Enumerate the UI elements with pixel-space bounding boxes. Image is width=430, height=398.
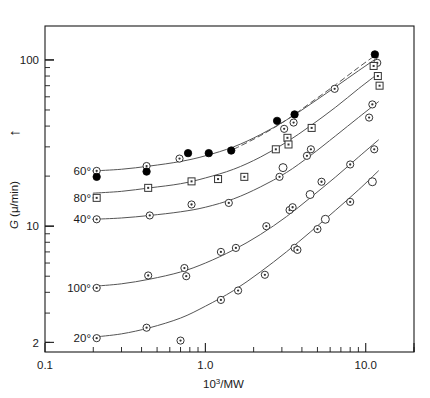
marker-center-dot [147, 274, 149, 276]
marker-center-dot [145, 327, 147, 329]
marker-center-dot [96, 170, 98, 172]
marker-square-dot [376, 82, 383, 89]
marker-circle-dot [232, 244, 239, 251]
marker-circle-dot [290, 119, 297, 126]
marker-center-dot [147, 187, 149, 189]
series-label-60deg: 60° [74, 165, 91, 177]
marker-circle-dot [145, 272, 152, 279]
marker-filled-circle [184, 149, 191, 156]
marker-circle-dot [93, 335, 100, 342]
marker-circle-dot [217, 248, 224, 255]
marker-center-dot [278, 176, 280, 178]
x-tick-label: 10.0 [355, 359, 377, 371]
marker-center-dot [296, 249, 298, 251]
y-axis-title: G (μ/min) [8, 181, 20, 229]
marker-square-dot [284, 134, 291, 141]
marker-filled [273, 117, 280, 124]
marker-outline [368, 178, 376, 186]
figure-container: 60°80°40°100°20° 0.11.010.0210100 103/MW… [0, 0, 430, 398]
marker-circle-dot [183, 273, 190, 280]
marker-center-dot [306, 155, 308, 157]
marker-circle-dot [331, 85, 338, 92]
marker-open-circle [368, 178, 376, 186]
marker-center-dot [145, 165, 147, 167]
marker-circle-dot [263, 223, 270, 230]
marker-filled-circle [228, 147, 235, 154]
x-tick-label: 1.0 [197, 359, 213, 371]
marker-circle-dot [281, 125, 288, 132]
marker-square-dot [215, 176, 222, 183]
marker-circle-dot [289, 204, 296, 211]
marker-center-dot [96, 197, 98, 199]
marker-circle-dot [307, 146, 314, 153]
y-tick-label: 100 [20, 54, 39, 66]
marker-center-dot [286, 137, 288, 139]
marker-center-dot [373, 148, 375, 150]
marker-center-dot [190, 203, 192, 205]
marker-outline [321, 215, 329, 223]
marker-center-dot [368, 116, 370, 118]
log-log-plot: 60°80°40°100°20° 0.11.010.0210100 103/MW… [0, 0, 430, 398]
marker-center-dot [243, 176, 245, 178]
marker-center-dot [96, 287, 98, 289]
marker-center-dot [220, 251, 222, 253]
marker-center-dot [237, 289, 239, 291]
marker-center-dot [264, 274, 266, 276]
marker-square-dot [285, 141, 292, 148]
marker-circle-dot [146, 212, 153, 219]
marker-filled [205, 149, 212, 156]
marker-outline [279, 164, 287, 172]
marker-center-dot [291, 206, 293, 208]
marker-center-dot [377, 75, 379, 77]
marker-filled [143, 168, 150, 175]
marker-square-dot [188, 178, 195, 185]
marker-circle-dot [294, 246, 301, 253]
marker-center-dot [283, 128, 285, 130]
marker-center-dot [292, 121, 294, 123]
marker-center-dot [217, 178, 219, 180]
marker-square-dot [241, 173, 248, 180]
marker-center-dot [191, 180, 193, 182]
marker-circle-dot [93, 284, 100, 291]
x-axis-title: 103/MW [203, 377, 244, 391]
marker-filled [184, 149, 191, 156]
marker-circle-dot [93, 216, 100, 223]
marker-circle-dot [276, 173, 283, 180]
marker-circle-dot [261, 271, 268, 278]
marker-square-dot [308, 124, 315, 131]
marker-filled-circle [205, 149, 212, 156]
marker-open-circle [321, 215, 329, 223]
marker-center-dot [379, 85, 381, 87]
y-axis-arrow-icon: ↑ [5, 129, 22, 137]
marker-circle-dot [188, 201, 195, 208]
marker-circle-dot [234, 287, 241, 294]
marker-circle-dot [371, 146, 378, 153]
series-label-20deg: 20° [74, 332, 91, 344]
marker-center-dot [371, 103, 373, 105]
marker-open-circle [306, 191, 314, 199]
marker-open-circle [279, 164, 287, 172]
marker-center-dot [333, 88, 335, 90]
marker-center-dot [235, 247, 237, 249]
marker-circle-dot [366, 114, 373, 121]
marker-center-dot [178, 157, 180, 159]
marker-center-dot [311, 127, 313, 129]
series-label-80deg: 80° [74, 192, 91, 204]
y-tick-label: 2 [33, 337, 39, 349]
marker-filled [228, 147, 235, 154]
marker-circle-dot [347, 198, 354, 205]
marker-center-dot [349, 201, 351, 203]
marker-circle-dot [177, 337, 184, 344]
marker-filled-circle [371, 51, 378, 58]
marker-center-dot [316, 228, 318, 230]
marker-center-dot [183, 267, 185, 269]
marker-circle-dot [303, 152, 310, 159]
marker-square-dot [374, 73, 381, 80]
marker-circle-dot [225, 199, 232, 206]
marker-filled-circle [93, 173, 100, 180]
marker-circle-dot [369, 101, 376, 108]
marker-filled-circle [291, 111, 298, 118]
marker-center-dot [220, 299, 222, 301]
series-label-40deg: 40° [74, 213, 91, 225]
marker-circle-dot [143, 324, 150, 331]
